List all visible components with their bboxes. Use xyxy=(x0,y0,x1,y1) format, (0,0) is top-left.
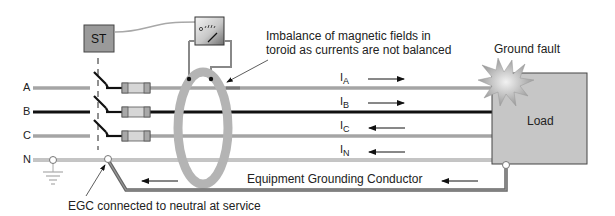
current-label-ic: IC xyxy=(340,120,350,134)
line-label-n: N xyxy=(23,154,31,165)
current-label-ia: IA xyxy=(340,72,349,86)
current-label-in: IN xyxy=(340,144,350,158)
load-label: Load xyxy=(527,114,554,128)
toroid-imbalance-note: Imbalance of magnetic fields in toroid a… xyxy=(266,29,451,57)
current-label-ib: IB xyxy=(340,96,349,110)
ground-fault-label: Ground fault xyxy=(494,42,560,56)
conductor-a xyxy=(33,72,495,88)
egc-neutral-label: EGC connected to neutral at service xyxy=(68,199,261,213)
egc-neutral-pointer xyxy=(86,165,105,196)
line-label-c: C xyxy=(23,130,31,141)
sensor-meter-icon xyxy=(195,17,224,45)
line-label-a: A xyxy=(23,82,30,93)
st-to-sensor-wire xyxy=(115,22,196,32)
fuse-b xyxy=(122,107,150,117)
egc-label: Equipment Grounding Conductor xyxy=(247,172,422,186)
fuse-c xyxy=(122,131,150,141)
st-label: ST xyxy=(91,33,106,45)
line-label-b: B xyxy=(23,106,30,117)
toroid-pointer xyxy=(227,60,268,82)
fuse-a xyxy=(122,83,150,93)
conductor-c xyxy=(33,120,495,136)
conductor-b xyxy=(33,96,495,112)
